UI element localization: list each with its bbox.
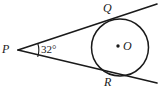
geometry-figure: P Q R O 32° bbox=[0, 0, 158, 91]
upper-tangent-line bbox=[18, 4, 157, 50]
circle-shape bbox=[92, 19, 149, 76]
angle-arc bbox=[38, 44, 39, 57]
angle-measure-label: 32° bbox=[41, 44, 56, 55]
vertex-label-q: Q bbox=[103, 2, 112, 14]
geometry-canvas bbox=[0, 0, 158, 91]
lower-tangent-line bbox=[18, 50, 157, 83]
vertex-label-r: R bbox=[104, 76, 111, 88]
vertex-label-p: P bbox=[2, 43, 9, 55]
center-dot bbox=[116, 44, 119, 47]
center-label-o: O bbox=[123, 40, 132, 52]
